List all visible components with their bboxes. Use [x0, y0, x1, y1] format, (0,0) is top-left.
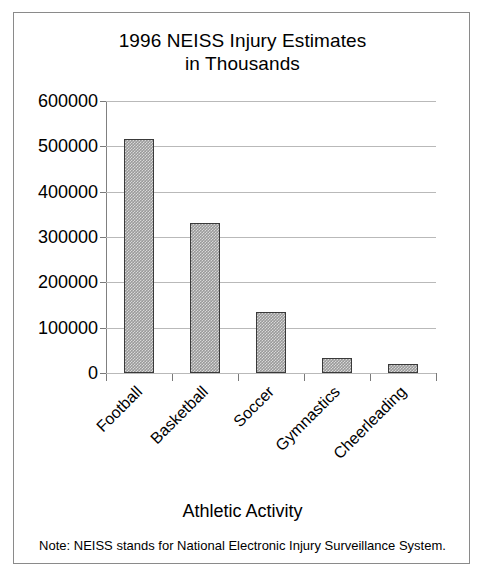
bar-gymnastics: [322, 358, 352, 373]
bar-cheerleading: [388, 364, 418, 373]
chart-note: Note: NEISS stands for National Electron…: [14, 538, 471, 554]
gridline: [106, 146, 436, 147]
bar-soccer: [256, 312, 286, 373]
x-axis-title: Athletic Activity: [14, 501, 471, 522]
gridline: [106, 192, 436, 193]
x-axis-tick: [106, 373, 107, 381]
y-axis-tick-label: 500000: [0, 137, 98, 155]
y-axis-tick-label: 400000: [0, 183, 98, 201]
x-axis-tick: [304, 373, 305, 381]
figure-frame: 1996 NEISS Injury Estimates in Thousands…: [13, 12, 470, 564]
category-label-gymnastics: Gymnastics: [272, 383, 343, 454]
plot-wrapper: 6000005000004000003000002000001000000 Fo…: [14, 13, 471, 565]
gridline: [106, 237, 436, 238]
x-axis-tick: [238, 373, 239, 381]
figure-page: 1996 NEISS Injury Estimates in Thousands…: [0, 0, 484, 580]
y-axis-tick-label: 100000: [0, 319, 98, 337]
x-axis-tick: [370, 373, 371, 381]
x-axis-tick: [172, 373, 173, 381]
gridline: [106, 282, 436, 283]
category-label-basketball: Basketball: [147, 383, 211, 447]
category-label-soccer: Soccer: [230, 383, 277, 430]
bar-basketball: [190, 223, 220, 373]
x-axis-tick: [436, 373, 437, 381]
gridline: [106, 101, 436, 102]
y-axis-tick-label: 600000: [0, 92, 98, 110]
gridline: [106, 373, 436, 374]
bar-football: [124, 139, 154, 373]
y-axis-tick-label: 200000: [0, 273, 98, 291]
y-axis-tick-label: 300000: [0, 228, 98, 246]
plot-area: [106, 101, 436, 373]
category-label-football: Football: [93, 383, 145, 435]
y-axis-tick-label: 0: [0, 364, 98, 382]
